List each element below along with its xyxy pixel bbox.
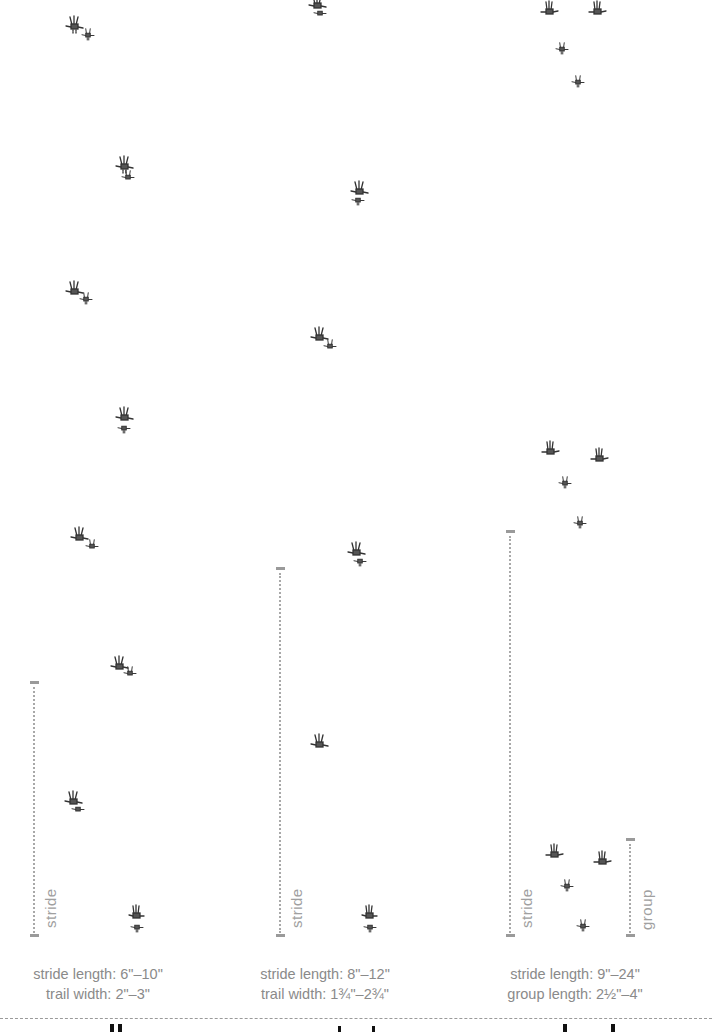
hind-footprint-icon — [543, 841, 567, 865]
fore-footprint-icon — [574, 916, 592, 934]
footprint-icon — [119, 167, 137, 185]
walk-trail-width: trail width: 2"–3" — [0, 984, 196, 1004]
fore-footprint-icon — [571, 513, 589, 531]
fore-footprint-icon — [553, 39, 571, 57]
footprint-icon — [349, 190, 367, 208]
hind-footprint-icon — [591, 848, 615, 872]
footprint-icon — [351, 551, 369, 569]
footprint-icon — [361, 917, 379, 935]
footprint-icon — [321, 336, 339, 354]
group-label: group — [638, 889, 655, 930]
walk-stride-measure: stride — [30, 681, 44, 937]
track-diagram: stride stride length: 6"–10" trail width… — [0, 0, 712, 1032]
footprint-icon — [77, 289, 95, 307]
fore-footprint-icon — [558, 876, 576, 894]
bound-group-length: group length: 2½"–4" — [470, 984, 680, 1004]
footprint-icon — [83, 536, 101, 554]
footprint-icon — [69, 799, 87, 817]
footprint-icon — [121, 663, 139, 681]
bound-caption: stride length: 9"–24" group length: 2½"–… — [470, 964, 680, 1004]
footprint-icon — [128, 917, 146, 935]
trot-caption: stride length: 8"–12" trail width: 1¾"–2… — [230, 964, 420, 1004]
bound-group-measure: group — [626, 838, 640, 937]
hind-footprint-icon — [586, 0, 610, 22]
footprint-icon — [308, 731, 332, 755]
fore-footprint-icon — [556, 473, 574, 491]
section-divider — [0, 1018, 712, 1019]
hind-footprint-icon — [539, 438, 563, 462]
footprint-icon — [79, 25, 97, 43]
fore-footprint-icon — [569, 72, 587, 90]
stride-label: stride — [42, 888, 59, 928]
cropped-heading — [0, 1024, 712, 1032]
hind-footprint-icon — [588, 445, 612, 469]
stride-label: stride — [518, 888, 535, 928]
bound-stride-length: stride length: 9"–24" — [470, 964, 680, 984]
stride-label: stride — [288, 888, 305, 928]
walk-caption: stride length: 6"–10" trail width: 2"–3" — [0, 964, 196, 1004]
walk-stride-length: stride length: 6"–10" — [0, 964, 196, 984]
footprint-icon — [115, 418, 133, 436]
trot-trail-width: trail width: 1¾"–2¾" — [230, 984, 420, 1004]
hind-footprint-icon — [538, 0, 562, 22]
footprint-icon — [311, 3, 329, 21]
trot-stride-length: stride length: 8"–12" — [230, 964, 420, 984]
trot-stride-measure: stride — [276, 567, 290, 937]
bound-stride-measure: stride — [506, 530, 520, 937]
